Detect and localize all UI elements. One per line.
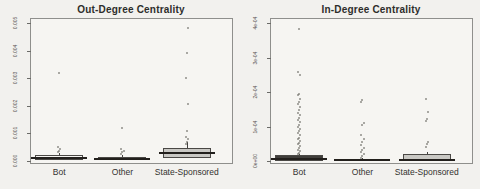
figure-centrality-boxplots: Out-Degree Centrality 0.0000.0010.0020.0… xyxy=(0,0,480,189)
outlier-dot xyxy=(299,114,301,116)
outlier-dot xyxy=(58,72,60,74)
y-axis-tick xyxy=(27,51,31,52)
outlier-dot xyxy=(426,118,428,120)
outlier-dot xyxy=(360,144,362,146)
outlier-dot xyxy=(297,103,299,105)
outlier-dot xyxy=(186,130,188,132)
outlier-dot xyxy=(185,77,187,79)
y-axis-tick-label: 0.001 xyxy=(11,122,19,144)
outlier-dot xyxy=(59,148,61,150)
outlier-dot xyxy=(187,138,189,140)
y-axis-tick xyxy=(267,92,271,93)
outlier-dot xyxy=(297,112,299,114)
outlier-dot xyxy=(363,147,365,149)
outlier-dot xyxy=(361,99,363,101)
outlier-dot xyxy=(299,98,301,100)
outlier-dot xyxy=(427,111,429,113)
outlier-dot xyxy=(360,101,362,103)
y-axis-tick xyxy=(27,106,31,107)
outlier-dot xyxy=(299,121,301,123)
outlier-dot xyxy=(298,124,300,126)
outlier-dot xyxy=(427,141,429,143)
y-axis-tick-label: 0.002 xyxy=(11,95,19,117)
outlier-dot xyxy=(298,152,300,154)
outlier-dot xyxy=(360,151,362,153)
x-category-label-state-sponsored: State-Sponsored xyxy=(139,167,235,177)
plot-area-out-degree: 0.0000.0010.0020.0030.0040.005BotOtherSt… xyxy=(30,18,233,164)
outlier-dot xyxy=(360,134,362,136)
outlier-dot xyxy=(297,94,299,96)
outlier-dot xyxy=(120,148,122,150)
y-axis-tick xyxy=(267,58,271,59)
chart-title-out-degree: Out-Degree Centrality xyxy=(30,4,232,15)
outlier-dot xyxy=(361,149,363,151)
outlier-dot xyxy=(361,141,363,143)
y-axis-tick xyxy=(27,23,31,24)
boxplot-median-line xyxy=(334,159,390,161)
outlier-dot xyxy=(298,117,300,119)
y-axis-tick-label: 0.003 xyxy=(11,67,19,89)
y-axis-tick-label: 0.004 xyxy=(11,40,19,62)
y-axis-tick xyxy=(27,78,31,79)
outlier-dot xyxy=(186,52,188,54)
boxplot-median-line xyxy=(94,158,150,160)
y-axis-tick xyxy=(267,161,271,162)
y-axis-tick xyxy=(267,23,271,24)
outlier-dot xyxy=(297,71,299,73)
outlier-dot xyxy=(361,124,363,126)
panel-in-degree: In-Degree Centrality 0e+001e-042e-043e-0… xyxy=(240,0,480,189)
outlier-dot xyxy=(425,98,427,100)
boxplot-median-line xyxy=(271,158,327,160)
y-axis-tick-label: 3e-04 xyxy=(251,47,259,69)
outlier-dot xyxy=(297,149,299,151)
y-axis-tick xyxy=(27,133,31,134)
outlier-dot xyxy=(57,146,59,148)
outlier-dot xyxy=(187,27,189,29)
panel-out-degree: Out-Degree Centrality 0.0000.0010.0020.0… xyxy=(0,0,240,189)
outlier-dot xyxy=(298,109,300,111)
outlier-dot xyxy=(363,138,365,140)
boxplot-median-line xyxy=(31,157,87,159)
outlier-dot xyxy=(297,119,299,121)
boxplot-median-line xyxy=(159,152,215,154)
outlier-dot xyxy=(298,93,300,95)
outlier-dot xyxy=(185,136,187,138)
outlier-dot xyxy=(299,106,301,108)
y-axis-tick-label: 2e-04 xyxy=(251,81,259,103)
x-category-label-state-sponsored: State-Sponsored xyxy=(379,167,475,177)
outlier-dot xyxy=(361,155,363,157)
outlier-dot xyxy=(298,147,300,149)
chart-title-in-degree: In-Degree Centrality xyxy=(270,4,472,15)
outlier-dot xyxy=(363,122,365,124)
outlier-dot xyxy=(299,128,301,130)
outlier-dot xyxy=(426,143,428,145)
outlier-dot xyxy=(425,120,427,122)
outlier-dot xyxy=(298,142,300,144)
plot-area-in-degree: 0e+001e-042e-043e-044e-04BotOtherState-S… xyxy=(270,18,473,164)
outlier-dot xyxy=(123,150,125,152)
outlier-dot xyxy=(298,101,300,103)
outlier-dot xyxy=(121,127,123,129)
outlier-dot xyxy=(187,103,189,105)
outlier-dot xyxy=(425,146,427,148)
outlier-dot xyxy=(299,145,301,147)
y-axis-tick xyxy=(27,161,31,162)
y-axis-tick xyxy=(267,127,271,128)
boxplot-median-line xyxy=(399,159,455,161)
y-axis-tick-label: 1e-04 xyxy=(251,116,259,138)
outlier-dot xyxy=(299,134,301,136)
outlier-dot xyxy=(299,140,301,142)
y-axis-tick-label: 0.005 xyxy=(11,12,19,34)
outlier-dot xyxy=(299,74,301,76)
y-axis-tick-label: 4e-04 xyxy=(251,12,259,34)
outlier-dot xyxy=(298,28,300,30)
outlier-dot xyxy=(298,137,300,139)
